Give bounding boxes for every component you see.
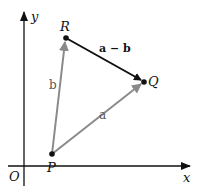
vector-a-minus-b-label: a − b (99, 42, 131, 55)
vector-b (52, 42, 65, 154)
vector-b-label: b (49, 78, 57, 92)
y-axis-label: y (30, 9, 39, 24)
vector-a-label: a (99, 108, 106, 122)
point-r-label: R (59, 19, 70, 34)
point-q-label: Q (148, 74, 159, 89)
point-q (141, 79, 147, 85)
point-p-label: P (46, 160, 56, 175)
point-p (49, 151, 55, 157)
x-axis-label: x (183, 170, 191, 185)
vector-diagram: y x O P Q R a b a − b (0, 0, 209, 194)
origin-label: O (9, 169, 20, 184)
vector-a (52, 84, 141, 154)
point-r (63, 35, 69, 41)
